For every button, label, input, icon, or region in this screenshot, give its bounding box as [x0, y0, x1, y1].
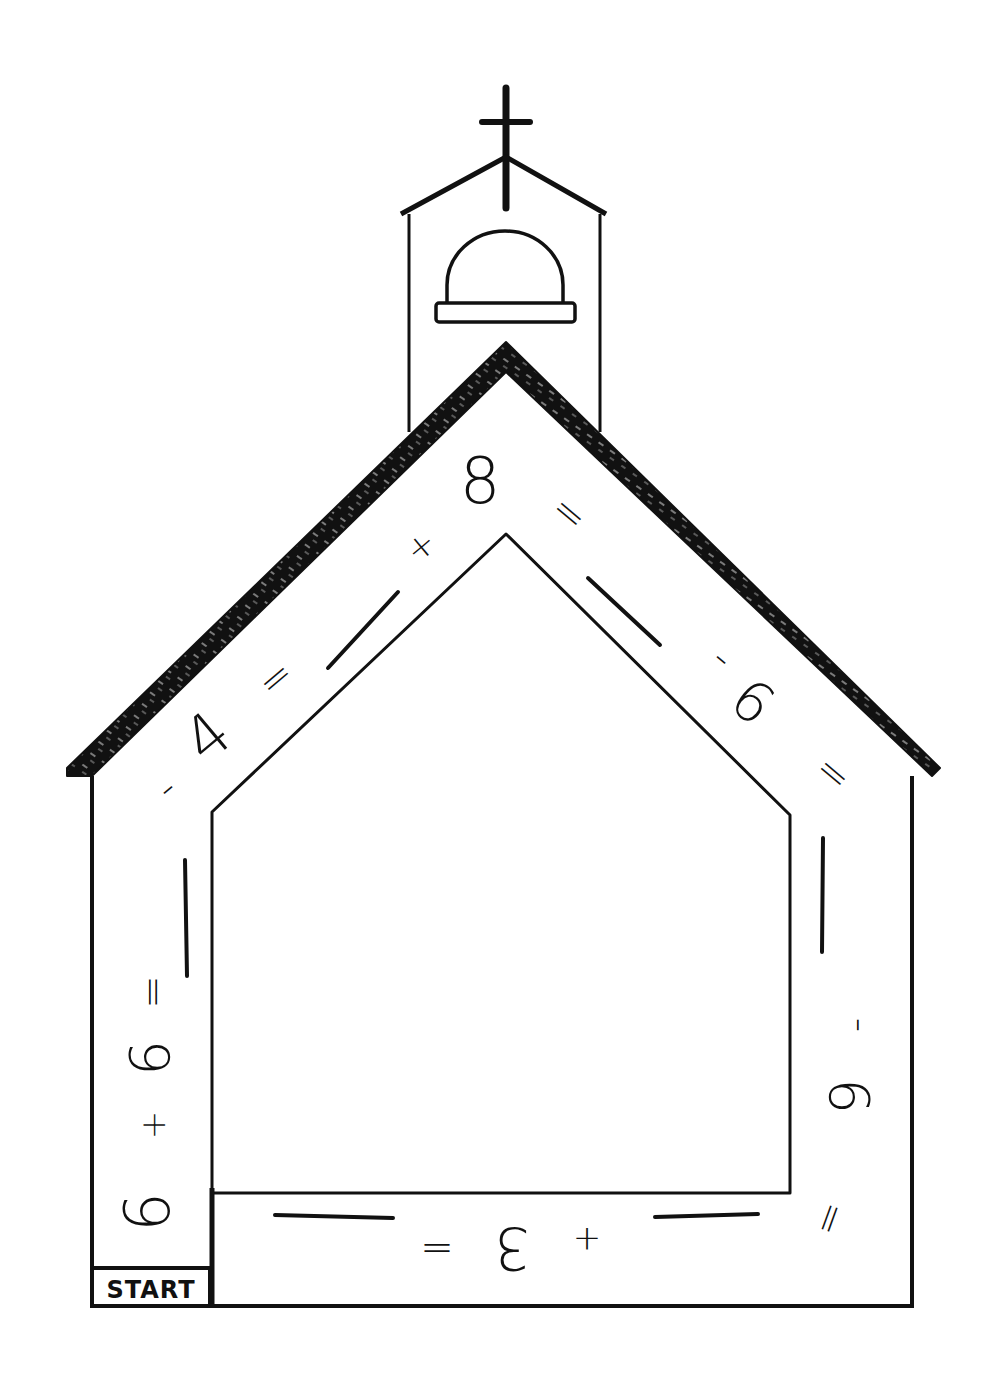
answer-blank-right-roof[interactable] [588, 578, 660, 645]
equation-token: 4 [169, 696, 246, 777]
equation-token: = [803, 1195, 858, 1242]
equation-token: 6 [817, 1078, 882, 1114]
belfry-arch [447, 231, 563, 304]
equation-token: = [806, 744, 861, 801]
belfry-sill [436, 303, 575, 322]
equation-token: - [146, 765, 187, 810]
answer-blank-bottom[interactable] [275, 1215, 393, 1218]
equation-token: - [703, 635, 744, 680]
equation-token: = [542, 484, 597, 541]
start-box: START [92, 1268, 210, 1306]
equation-token: 6 [718, 665, 787, 738]
equation-token: = [129, 975, 175, 1009]
start-label: START [106, 1276, 195, 1304]
answer-blank-right-wall[interactable] [822, 838, 823, 952]
equation-token: + [133, 1111, 173, 1140]
church-math-path-worksheet: START 6+6=-4=+8=-6=-6=+3= [0, 0, 993, 1392]
equation-token: 6 [117, 1040, 182, 1076]
equation-token: + [397, 522, 445, 571]
equation-token: = [247, 649, 302, 706]
equation-token: = [420, 1226, 454, 1272]
equation-token: 3 [494, 1214, 531, 1282]
answer-blank-left-wall[interactable] [185, 860, 187, 976]
answer-blank-bottom[interactable] [655, 1214, 758, 1217]
inner-track-boundary [212, 534, 790, 1306]
equation-tokens: 6+6=-4=+8=-6=-6=+3= [111, 444, 884, 1283]
equation-token: - [838, 1018, 884, 1032]
equation-token: 6 [111, 1192, 184, 1231]
steeple [401, 88, 606, 432]
equation-token: 8 [460, 444, 501, 518]
equation-token: + [573, 1220, 602, 1260]
answer-blank-left-roof[interactable] [328, 592, 398, 668]
